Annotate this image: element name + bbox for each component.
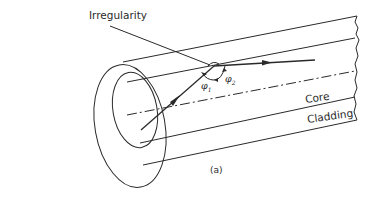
incident-ray-arrowhead	[170, 95, 180, 106]
phi2-label: φ2	[225, 73, 235, 86]
phi1-subscript: 1	[208, 86, 212, 93]
inner-core-end-ellipse	[107, 69, 164, 151]
phi1-label: φ1	[201, 80, 211, 93]
cladding-bottom-line	[143, 120, 357, 165]
angle-arc-arrow-mid	[214, 78, 218, 82]
angle-arc-arrow-right	[222, 68, 227, 72]
phi2-subscript: 2	[232, 79, 236, 86]
broken-end-line	[354, 16, 359, 120]
angle-arc-phi2	[214, 66, 225, 80]
core-top-line-2	[215, 38, 355, 65]
phi2-symbol: φ	[225, 73, 232, 84]
figure-caption: (a)	[210, 165, 223, 175]
irregularity-leader-line	[110, 26, 210, 65]
outer-cladding-end-ellipse	[85, 59, 175, 193]
cladding-top-line	[123, 16, 357, 62]
phi1-symbol: φ	[201, 80, 208, 91]
reflected-ray-arrowhead	[262, 60, 272, 66]
irregularity-label: Irregularity	[89, 9, 147, 21]
